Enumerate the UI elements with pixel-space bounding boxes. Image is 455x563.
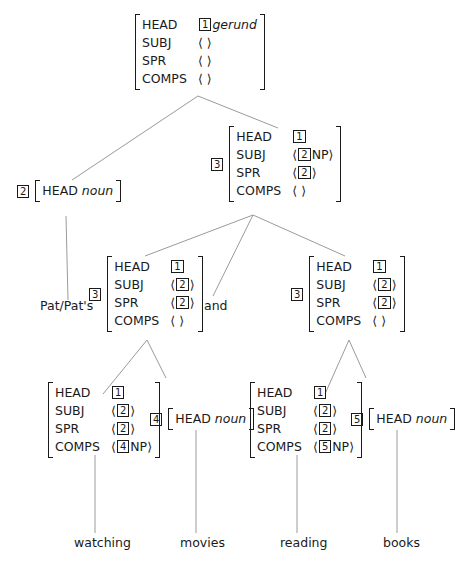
feature-value: ⟨ ⟩ [198, 34, 212, 52]
word-movies: movies [180, 535, 225, 550]
feature-name: HEAD [376, 411, 411, 426]
edge-coord-conjright [253, 215, 345, 256]
tag-box: 2 [319, 422, 331, 435]
feature-value: noun [82, 183, 113, 198]
list-close: ⟩ [392, 277, 397, 292]
list-open: ⟨ [111, 403, 116, 418]
feature-name: COMPS [142, 70, 198, 88]
tag-box: 1 [112, 386, 124, 399]
tag-box: 3 [211, 158, 223, 171]
conj-right-node: 3 HEAD1 SUBJ⟨2⟩ SPR⟨2⟩ COMPS⟨ ⟩ [290, 256, 405, 332]
feature-value: noun [416, 411, 447, 426]
feature-name: SUBJ [316, 276, 372, 294]
noun-left-node: 4 HEAD noun [149, 408, 254, 430]
verb-right-avm: HEAD1 SUBJ⟨2⟩ SPR⟨2⟩ COMPS⟨5NP⟩ [250, 382, 362, 458]
feature-row: HEAD1gerund [142, 16, 257, 34]
verb-left-avm: HEAD1 SUBJ⟨2⟩ SPR⟨2⟩ COMPS⟨4NP⟩ [48, 382, 160, 458]
list-close: ⟩ [190, 295, 195, 310]
feature-name: HEAD [114, 258, 170, 276]
feature-value: noun [215, 411, 246, 426]
feature-name: SPR [142, 52, 198, 70]
noun-right-node: 5 HEAD noun [350, 408, 455, 430]
edge-specifier-word [66, 216, 68, 300]
feature-name: HEAD [175, 411, 210, 426]
conj-left-avm: HEAD1 SUBJ⟨2⟩ SPR⟨2⟩ COMPS⟨ ⟩ [107, 256, 202, 332]
word-pat: Pat/Pat's [40, 298, 93, 313]
feature-row: SPR⟨2⟩ [236, 164, 333, 182]
feature-row: HEAD1 [236, 128, 333, 146]
feature-row: SUBJ⟨2⟩ [316, 276, 396, 294]
edge-conjleft-noun [147, 340, 166, 378]
feature-row: HEAD1 [55, 384, 152, 402]
feature-value: NP [130, 439, 147, 454]
verb-left-node: HEAD1 SUBJ⟨2⟩ SPR⟨2⟩ COMPS⟨4NP⟩ [48, 382, 160, 458]
noun-left-avm: HEAD noun [168, 408, 254, 430]
verb-right-node: HEAD1 SUBJ⟨2⟩ SPR⟨2⟩ COMPS⟨5NP⟩ [250, 382, 362, 458]
feature-row: SUBJ⟨2⟩ [55, 402, 152, 420]
edge-coord-and [213, 215, 253, 296]
list-open: ⟨ [292, 165, 297, 180]
tag-box: 2 [117, 422, 129, 435]
feature-value: NP [312, 147, 329, 162]
tag-box: 2 [117, 404, 129, 417]
feature-name: HEAD [55, 384, 111, 402]
tag-box: 1 [199, 18, 211, 31]
list-open: ⟨ [313, 421, 318, 436]
tag-box: 2 [378, 278, 390, 291]
conj-right-avm: HEAD1 SUBJ⟨2⟩ SPR⟨2⟩ COMPS⟨ ⟩ [309, 256, 404, 332]
list-open: ⟨ [170, 295, 175, 310]
list-open: ⟨ [292, 147, 297, 162]
word-watching: watching [74, 535, 131, 550]
feature-row: HEAD1 [114, 258, 194, 276]
tag-box: 2 [298, 166, 310, 179]
feature-name: SPR [236, 164, 292, 182]
feature-row: SPR⟨ ⟩ [142, 52, 257, 70]
edge-root-coord [198, 96, 278, 128]
feature-row: COMPS⟨4NP⟩ [55, 438, 152, 456]
feature-name: SPR [114, 294, 170, 312]
feature-name: SUBJ [236, 146, 292, 164]
tag-box: 1 [171, 260, 183, 273]
tag-box: 5 [351, 413, 363, 426]
tag-box: 2 [298, 148, 310, 161]
edge-conjright-noun [349, 340, 366, 378]
feature-row: SUBJ⟨2⟩ [114, 276, 194, 294]
root-avm: HEAD1gerund SUBJ⟨ ⟩ SPR⟨ ⟩ COMPS⟨ ⟩ [135, 14, 265, 90]
feature-name: COMPS [114, 312, 170, 330]
feature-name: COMPS [257, 438, 313, 456]
feature-row: COMPS⟨ ⟩ [236, 182, 333, 200]
feature-name: HEAD [316, 258, 372, 276]
feature-value: gerund [212, 17, 257, 32]
feature-row: SUBJ⟨2⟩ [257, 402, 354, 420]
list-close: ⟩ [147, 439, 152, 454]
list-open: ⟨ [313, 439, 318, 454]
word-books: books [383, 535, 420, 550]
feature-row: SPR⟨2⟩ [114, 294, 194, 312]
feature-row: COMPS⟨5NP⟩ [257, 438, 354, 456]
feature-row: SPR⟨2⟩ [316, 294, 396, 312]
feature-name: COMPS [236, 182, 292, 200]
feature-row: SUBJ⟨2NP⟩ [236, 146, 333, 164]
feature-name: HEAD [142, 16, 198, 34]
tag-box: 3 [89, 288, 101, 301]
list-close: ⟩ [130, 403, 135, 418]
tag-box: 2 [319, 404, 331, 417]
feature-name: SUBJ [257, 402, 313, 420]
list-open: ⟨ [372, 295, 377, 310]
feature-name: HEAD [236, 128, 292, 146]
tag-box: 5 [319, 440, 331, 453]
feature-name: SUBJ [142, 34, 198, 52]
feature-value: ⟨ ⟩ [198, 70, 212, 88]
list-open: ⟨ [170, 277, 175, 292]
specifier-node: 2 HEAD noun [16, 180, 121, 202]
list-close: ⟩ [349, 439, 354, 454]
list-close: ⟩ [329, 147, 334, 162]
root-node: HEAD1gerund SUBJ⟨ ⟩ SPR⟨ ⟩ COMPS⟨ ⟩ [135, 14, 265, 90]
list-close: ⟩ [130, 421, 135, 436]
feature-row: SPR⟨2⟩ [55, 420, 152, 438]
feature-row: HEAD1 [316, 258, 396, 276]
tag-box: 4 [117, 440, 129, 453]
feature-row: COMPS⟨ ⟩ [142, 70, 257, 88]
list-close: ⟩ [332, 421, 337, 436]
feature-value: ⟨ ⟩ [170, 312, 184, 330]
